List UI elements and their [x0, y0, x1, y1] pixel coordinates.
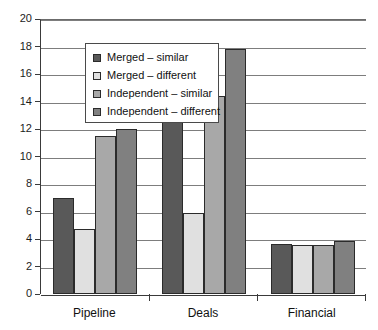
legend-swatch-icon: [93, 90, 101, 98]
legend-item: Independent – different: [93, 103, 212, 120]
y-tick-label: 6: [26, 205, 32, 218]
legend-item-label: Independent – similar: [107, 87, 212, 100]
bar-chart: 20181614121086420 Merged – similar Merge…: [0, 0, 378, 330]
legend-item-label: Merged – different: [107, 69, 196, 82]
y-tick-label: 12: [20, 122, 32, 135]
legend-item-label: Independent – different: [107, 105, 220, 118]
y-tick-label: 2: [26, 260, 32, 273]
x-axis-separator: [149, 294, 150, 301]
bar: [271, 244, 292, 294]
y-tick-label: 4: [26, 232, 32, 245]
bar-group: [271, 20, 355, 294]
bar: [292, 245, 313, 295]
y-tick-label: 10: [20, 150, 32, 163]
y-tick-label: 14: [20, 95, 32, 108]
bar: [313, 245, 334, 294]
y-tick-label: 20: [20, 12, 32, 25]
x-axis-separator: [365, 294, 366, 301]
x-tick-label: Financial: [257, 306, 366, 320]
y-tick-label: 18: [20, 40, 32, 53]
x-tick-label: Deals: [149, 306, 258, 320]
x-axis-separator: [257, 294, 258, 301]
bar: [225, 49, 246, 294]
legend-swatch-icon: [93, 108, 101, 116]
y-tick-label: 16: [20, 67, 32, 80]
bar: [204, 96, 225, 294]
chart-legend: Merged – similar Merged – different Inde…: [85, 43, 219, 123]
y-axis: 20181614121086420: [0, 19, 40, 294]
bar: [74, 229, 95, 294]
plot-area: Merged – similar Merged – different Inde…: [40, 19, 366, 294]
x-tick-label: Pipeline: [40, 306, 149, 320]
bar: [53, 198, 74, 294]
bar: [162, 122, 183, 294]
y-tick-label: 0: [26, 287, 32, 300]
bar: [334, 241, 355, 294]
bar: [95, 136, 116, 294]
legend-item: Independent – similar: [93, 85, 212, 102]
x-axis: PipelineDealsFinancial: [40, 294, 366, 330]
legend-swatch-icon: [93, 54, 101, 62]
legend-item: Merged – different: [93, 67, 212, 84]
legend-item-label: Merged – similar: [107, 51, 188, 64]
legend-swatch-icon: [93, 72, 101, 80]
bar: [116, 129, 137, 294]
legend-item: Merged – similar: [93, 49, 212, 66]
bar: [183, 213, 204, 294]
y-tick-label: 8: [26, 177, 32, 190]
